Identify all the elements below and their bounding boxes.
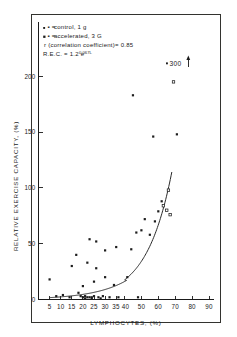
x-tick-label-70: 70 [171,303,179,310]
data-point [71,265,73,267]
data-point [167,189,169,191]
offscale-arrow-icon [186,56,190,67]
data-point [113,284,115,286]
legend-accelerated-label: accelerated, 3 G [54,33,102,39]
data-point [84,295,86,297]
data-point [144,218,146,220]
data-point [140,229,142,231]
data-point [49,278,51,280]
data-point [93,281,95,283]
data-point [88,296,90,298]
x-tick-label-80: 80 [188,303,196,310]
data-point [130,248,132,250]
x-tick-label-90: 90 [205,303,213,310]
data-point [86,296,88,298]
x-tick-label-50: 50 [138,303,146,310]
data-point [149,234,151,236]
x-tick-label-40: 40 [122,303,130,310]
y-tick-label-0: 0 [32,296,36,303]
legend-equation-exponent: 0.067L [79,50,92,55]
legend-control-label: control, 1 g [54,24,87,30]
data-point [91,297,93,299]
data-point [97,296,99,298]
data-point [95,240,97,242]
data-point [104,276,106,278]
data-point [162,205,164,207]
data-point [161,200,163,202]
legend-marker-control-icon [43,27,45,29]
data-point [169,213,171,215]
data-point [117,296,119,298]
data-point [154,220,156,222]
data-point [104,249,106,251]
data-point [152,135,154,137]
x-tick-label-5: 5 [48,303,52,310]
x-tick-label-60: 60 [155,303,163,310]
data-point [95,267,97,269]
y-axis-ticks: 0 50 100 150 200 [24,73,42,303]
y-tick-label-150: 150 [24,128,35,135]
y-tick-label-200: 200 [24,73,35,80]
data-point [68,296,70,298]
data-point [93,295,95,297]
data-point [157,210,159,212]
x-axis-title: LYMPHOCYTES, (%) [90,319,161,326]
y-tick-label-100: 100 [24,184,35,191]
data-point [62,294,64,296]
x-tick-label-30: 30 [101,303,109,310]
legend-correlation: r (correlation coefficient)= 0.85 [44,42,134,48]
series-1 [162,81,175,216]
scatter-plot: ▪ = control, 1 g ▪ = accelerated, 3 G r … [0,0,237,337]
y-axis-title: RELATIVE EXERCISE CAPACITY, (%) [12,121,19,251]
data-point [126,276,128,278]
x-tick-label-35: 35 [112,303,120,310]
offscale-annotation: 300 [166,56,190,67]
x-axis-ticks: 5 10 15 20 25 30 35 40 50 60 70 80 90 [48,296,213,311]
data-point [132,94,134,96]
data-point [84,297,86,299]
data-point [82,296,84,298]
data-point [108,296,110,298]
x-tick-label-25: 25 [90,303,98,310]
data-points-layer [49,81,178,300]
data-point [100,297,102,299]
data-point [135,231,137,233]
data-point [75,254,77,256]
offscale-value: 300 [170,60,182,67]
figure-container: ▪ = control, 1 g ▪ = accelerated, 3 G r … [0,0,237,337]
offscale-marker-icon [166,62,168,64]
axes [39,22,215,300]
data-point [77,292,79,294]
data-point [172,81,174,83]
legend: ▪ = control, 1 g ▪ = accelerated, 3 G r … [43,24,134,57]
data-point [166,209,168,211]
data-point [115,246,117,248]
data-point [80,295,82,297]
x-tick-label-15: 15 [68,303,76,310]
data-point [88,238,90,240]
data-point [137,296,139,298]
y-tick-label-50: 50 [28,240,36,247]
data-point [102,295,104,297]
legend-marker-accelerated-icon [43,36,45,38]
fit-curve [50,172,172,298]
x-tick-label-20: 20 [79,303,87,310]
data-point [82,285,84,287]
x-tick-label-10: 10 [57,303,65,310]
figure-frame [32,15,221,323]
data-point [86,262,88,264]
series-0 [49,94,178,299]
data-point [55,295,57,297]
data-point [176,133,178,135]
